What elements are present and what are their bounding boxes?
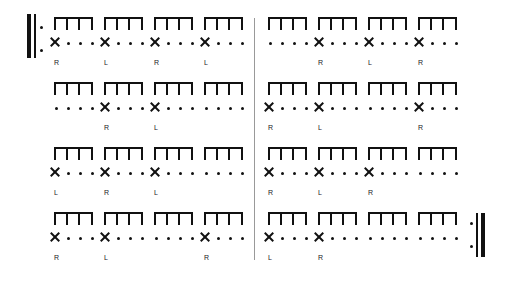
stem: [292, 82, 294, 95]
rest-dot-icon: [343, 107, 346, 110]
stem: [104, 212, 106, 225]
beat-group: [204, 147, 244, 203]
beam: [368, 17, 406, 32]
rest-dot-icon: [419, 172, 422, 175]
rest-dot-icon: [443, 42, 446, 45]
beam: [418, 17, 456, 32]
stem: [228, 17, 230, 30]
stem: [292, 147, 294, 160]
stem: [154, 147, 156, 160]
sticking-label: R: [318, 254, 323, 261]
stem: [368, 212, 370, 225]
stem: [280, 147, 282, 160]
stem: [204, 212, 206, 225]
stem: [392, 212, 394, 225]
stem: [228, 82, 230, 95]
stem: [430, 147, 432, 160]
rest-dot-icon: [217, 42, 220, 45]
beam: [204, 212, 242, 227]
stem: [91, 147, 93, 160]
stem: [216, 82, 218, 95]
accent-x-icon: [200, 232, 210, 242]
stem: [405, 147, 407, 160]
rest-dot-icon: [141, 107, 144, 110]
stem: [380, 212, 382, 225]
stem: [166, 82, 168, 95]
stem: [241, 17, 243, 30]
sticking-label: R: [104, 124, 109, 131]
rest-dot-icon: [455, 172, 458, 175]
rest-dot-icon: [117, 42, 120, 45]
beam: [204, 147, 242, 162]
stem: [442, 212, 444, 225]
stem: [104, 17, 106, 30]
rest-dot-icon: [179, 107, 182, 110]
accent-x-icon: [150, 102, 160, 112]
beat-group: [418, 147, 458, 203]
rest-dot-icon: [179, 237, 182, 240]
rest-dot-icon: [117, 172, 120, 175]
repeat-end-dot-upper: [470, 222, 473, 225]
stem: [342, 82, 344, 95]
rest-dot-icon: [241, 172, 244, 175]
rest-dot-icon: [455, 42, 458, 45]
rest-dot-icon: [355, 237, 358, 240]
accent-x-icon: [414, 37, 424, 47]
beat-group: R: [268, 147, 308, 203]
rest-dot-icon: [343, 237, 346, 240]
sticking-label: R: [268, 124, 273, 131]
rest-dot-icon: [167, 172, 170, 175]
rest-dot-icon: [229, 172, 232, 175]
rest-dot-icon: [191, 172, 194, 175]
stem: [392, 17, 394, 30]
stem: [430, 82, 432, 95]
repeat-start-thin-bar: [34, 14, 36, 58]
beam: [104, 17, 142, 32]
accent-x-icon: [50, 232, 60, 242]
accent-x-icon: [50, 37, 60, 47]
beam: [104, 82, 142, 97]
rest-dot-icon: [381, 107, 384, 110]
sticking-label: R: [154, 59, 159, 66]
rest-dot-icon: [167, 237, 170, 240]
stem: [241, 147, 243, 160]
stem: [54, 212, 56, 225]
rest-dot-icon: [91, 237, 94, 240]
stem: [141, 147, 143, 160]
sticking-label: L: [54, 189, 58, 196]
stem: [392, 147, 394, 160]
rest-dot-icon: [205, 107, 208, 110]
beat-group: [368, 82, 408, 138]
accent-x-icon: [150, 167, 160, 177]
accent-x-icon: [264, 102, 274, 112]
rest-dot-icon: [381, 42, 384, 45]
beam: [268, 17, 306, 32]
accent-x-icon: [414, 102, 424, 112]
repeat-end-thin-bar: [476, 213, 478, 257]
stem: [78, 82, 80, 95]
stem: [54, 17, 56, 30]
accent-x-icon: [314, 232, 324, 242]
stem: [418, 147, 420, 160]
stem: [305, 147, 307, 160]
beam: [318, 17, 356, 32]
stem: [418, 17, 420, 30]
rest-dot-icon: [191, 42, 194, 45]
beat-group: [418, 212, 458, 268]
accent-x-icon: [314, 167, 324, 177]
stem: [128, 82, 130, 95]
rest-dot-icon: [241, 42, 244, 45]
accent-x-icon: [50, 167, 60, 177]
rest-dot-icon: [179, 42, 182, 45]
sticking-label: R: [54, 59, 59, 66]
stem: [228, 212, 230, 225]
beat-group: L: [154, 147, 194, 203]
stem: [191, 147, 193, 160]
stem: [66, 82, 68, 95]
stem: [216, 212, 218, 225]
stem: [318, 212, 320, 225]
beat-group: L: [318, 82, 358, 138]
rest-dot-icon: [431, 107, 434, 110]
rest-dot-icon: [331, 42, 334, 45]
beam: [318, 82, 356, 97]
